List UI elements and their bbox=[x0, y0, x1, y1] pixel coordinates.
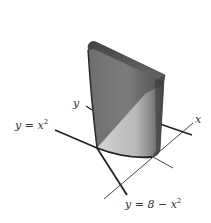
curve-upper-label: y = 8 − x2 bbox=[125, 198, 181, 210]
solid-figure bbox=[0, 0, 211, 223]
x-axis-label: x bbox=[195, 114, 201, 125]
y-axis-front-segment bbox=[153, 157, 173, 168]
y-axis-back-segment bbox=[86, 106, 92, 110]
curve-lower-label-exponent: 2 bbox=[44, 118, 48, 126]
curve-lower-label: y = x2 bbox=[15, 119, 48, 131]
curve-upper-label-text: y = 8 − x bbox=[125, 198, 177, 211]
curve-upper-label-exponent: 2 bbox=[177, 197, 181, 205]
parabola-back-segment bbox=[160, 124, 192, 135]
diagram-canvas: y x y = x2 y = 8 − x2 bbox=[0, 0, 211, 223]
y-axis-label: y bbox=[73, 98, 79, 109]
curve-lower-label-text: y = x bbox=[15, 119, 44, 132]
